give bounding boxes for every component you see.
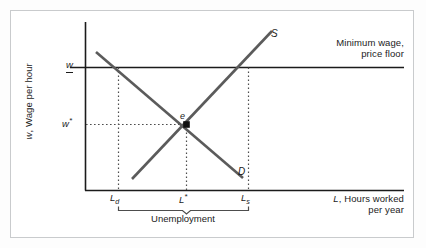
x-tick-labor-supplied-subscript: s <box>246 197 250 206</box>
underbar-accent <box>66 70 73 73</box>
supply-curve-label: S <box>271 28 278 39</box>
y-axis-title-text: , Wage per hour <box>23 63 34 132</box>
x-tick-labor-demanded-subscript: d <box>115 197 119 206</box>
y-axis-title-symbol: w <box>23 132 34 139</box>
y-tick-equilibrium-wage-label: w <box>62 118 69 129</box>
minimum-wage-annotation-line2: price floor <box>361 48 404 59</box>
unemployment-bracket-label: Unemployment <box>118 214 248 225</box>
star-accent: * <box>69 116 72 125</box>
x-axis-title: L, Hours workedper year <box>300 194 404 215</box>
equilibrium-point-label: e <box>180 111 185 121</box>
x-tick-labor-demanded: Ld <box>110 193 119 206</box>
x-tick-labor-equilibrium: L* <box>179 193 187 206</box>
y-axis-title: w, Wage per hour <box>24 31 35 171</box>
y-tick-equilibrium-wage: w* <box>62 117 72 130</box>
figure-root: w, Wage per hour L, Hours workedper year… <box>0 0 426 248</box>
x-axis-title-text: , Hours worked <box>339 193 404 204</box>
demand-curve-label: D <box>238 166 245 177</box>
y-tick-minimum-wage-label: w <box>66 59 73 70</box>
supply-curve <box>132 31 272 179</box>
minimum-wage-annotation: Minimum wage,price floor <box>288 38 404 59</box>
minimum-wage-annotation-line1: Minimum wage, <box>336 37 404 48</box>
x-axis-title-line2: per year <box>368 204 404 215</box>
x-tick-labor-equilibrium-superscript: * <box>184 192 187 201</box>
equilibrium-marker <box>183 121 190 128</box>
x-tick-labor-supplied: Ls <box>241 193 250 206</box>
y-tick-minimum-wage: w <box>66 60 73 73</box>
demand-curve <box>96 52 243 178</box>
